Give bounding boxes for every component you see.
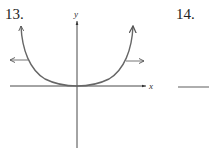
graph-13: y x (0, 0, 209, 150)
curve-left-end-arrow (21, 26, 45, 79)
y-axis-label: y (73, 9, 78, 19)
x-axis-label: x (148, 81, 153, 91)
